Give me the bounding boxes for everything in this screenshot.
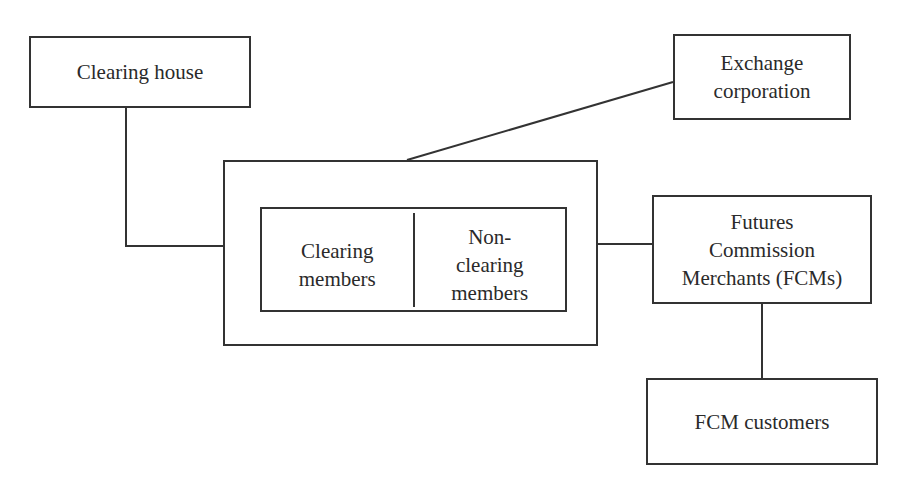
clearing-members-label: Clearing members <box>299 237 376 293</box>
non-clearing-members-label: Non- clearing members <box>451 223 528 307</box>
fcm-customers-label: FCM customers <box>695 408 830 436</box>
exchange-corporation-label: Exchange corporation <box>714 49 811 105</box>
clearing-house-node: Clearing house <box>29 36 251 108</box>
clearing-members-cell: Clearing members <box>262 227 413 293</box>
members-inner-node: Clearing members Non- clearing members <box>260 207 567 312</box>
edge-clearing-house-to-members <box>126 107 223 246</box>
fcms-node: Futures Commission Merchants (FCMs) <box>652 195 872 304</box>
edge-exchange-to-members <box>407 82 673 160</box>
clearing-house-label: Clearing house <box>77 58 204 86</box>
non-clearing-members-cell: Non- clearing members <box>413 213 566 307</box>
fcm-customers-node: FCM customers <box>646 378 878 465</box>
exchange-corporation-node: Exchange corporation <box>673 34 851 120</box>
fcms-label: Futures Commission Merchants (FCMs) <box>682 208 842 292</box>
